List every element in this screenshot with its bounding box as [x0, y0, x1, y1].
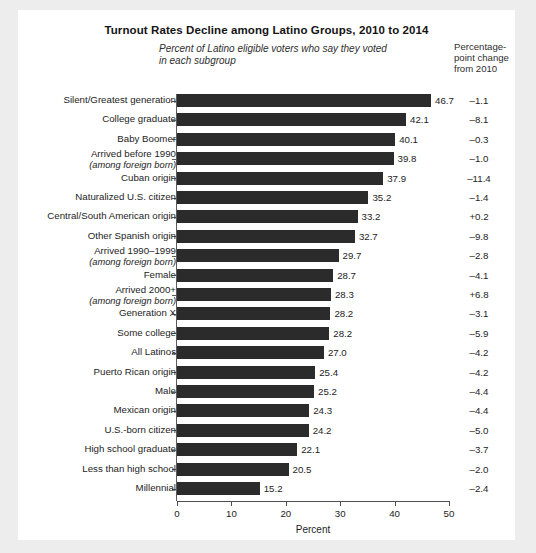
category-label: Arrived 2000+(among foreign born) — [89, 285, 176, 306]
change-value: –4.2 — [454, 367, 504, 378]
change-value: –5.9 — [454, 328, 504, 339]
bar — [177, 404, 309, 417]
bar-value-label: 25.4 — [319, 367, 338, 378]
category-label: Silent/Greatest generation — [63, 95, 176, 106]
category-label: Less than high school — [82, 464, 176, 475]
x-axis-tick — [449, 501, 450, 506]
category-label: Millennial — [136, 483, 176, 494]
category-label: College graduate — [102, 114, 176, 125]
bar-value-label: 29.7 — [343, 250, 362, 261]
change-value: –4.4 — [454, 405, 504, 416]
change-value: +6.8 — [454, 289, 504, 300]
bar — [177, 307, 330, 320]
change-value: –5.0 — [454, 425, 504, 436]
change-value: –0.3 — [454, 134, 504, 145]
change-value: –4.2 — [454, 347, 504, 358]
bar — [177, 94, 431, 107]
change-value: –1.0 — [454, 153, 504, 164]
category-label: Central/South American origin — [47, 211, 176, 222]
change-value: +0.2 — [454, 211, 504, 222]
change-value: –1.1 — [454, 95, 504, 106]
bar — [177, 230, 355, 243]
category-label: Arrived before 1990(among foreign born) — [89, 149, 176, 170]
x-axis-tick — [231, 501, 232, 506]
category-label: Male — [155, 386, 176, 397]
bar-value-label: 25.2 — [318, 386, 337, 397]
category-label: High school graduate — [84, 444, 176, 455]
x-axis-tick-label: 50 — [434, 508, 464, 519]
bar — [177, 133, 395, 146]
bar — [177, 152, 394, 165]
bar-value-label: 24.3 — [313, 405, 332, 416]
category-sublabel: (among foreign born) — [89, 296, 176, 307]
category-label: Female — [144, 270, 176, 281]
change-value: –4.1 — [454, 270, 504, 281]
bar — [177, 482, 260, 495]
bar — [177, 113, 406, 126]
category-label: All Latinos — [131, 347, 176, 358]
bar-value-label: 40.1 — [399, 134, 418, 145]
bar-value-label: 35.2 — [372, 192, 391, 203]
change-value: –9.8 — [454, 231, 504, 242]
bar — [177, 463, 289, 476]
change-value: –11.4 — [454, 173, 504, 184]
bar-value-label: 15.2 — [264, 483, 283, 494]
category-label: Cuban origin — [121, 173, 176, 184]
bar-value-label: 46.7 — [435, 95, 454, 106]
category-label: Puerto Rican origin — [94, 367, 176, 378]
category-sublabel: (among foreign born) — [89, 257, 176, 268]
bar-value-label: 28.2 — [333, 328, 352, 339]
bar — [177, 424, 309, 437]
x-axis-tick — [340, 501, 341, 506]
category-label: Naturalized U.S. citizen — [75, 192, 176, 203]
bar-value-label: 22.1 — [301, 444, 320, 455]
bar-value-label: 39.8 — [398, 153, 417, 164]
category-label: Other Spanish origin — [88, 231, 176, 242]
bar-value-label: 37.9 — [387, 173, 406, 184]
bar-value-label: 28.2 — [334, 308, 353, 319]
change-value: –1.4 — [454, 192, 504, 203]
bar-value-label: 33.2 — [362, 211, 381, 222]
change-value: –2.4 — [454, 483, 504, 494]
bar — [177, 191, 368, 204]
bar — [177, 366, 315, 379]
category-label: Generation X — [119, 308, 176, 319]
bar — [177, 288, 331, 301]
category-label: Some college — [117, 328, 176, 339]
x-axis-tick — [177, 501, 178, 506]
x-axis-tick-label: 30 — [325, 508, 355, 519]
bar — [177, 346, 324, 359]
x-axis-tick — [286, 501, 287, 506]
bar-value-label: 28.7 — [337, 270, 356, 281]
x-axis-tick-label: 20 — [271, 508, 301, 519]
category-sublabel: (among foreign born) — [89, 160, 176, 171]
bar — [177, 385, 314, 398]
category-label: Mexican origin — [114, 405, 176, 416]
x-axis-title: Percent — [177, 524, 449, 535]
bar — [177, 172, 383, 185]
x-axis-tick-label: 10 — [216, 508, 246, 519]
bar — [177, 210, 358, 223]
bar-value-label: 28.3 — [335, 289, 354, 300]
category-label: Baby Boomer — [117, 134, 176, 145]
chart-card: Turnout Rates Decline among Latino Group… — [18, 10, 515, 540]
category-label: U.S.-born citizen — [104, 425, 176, 436]
change-value: –3.7 — [454, 444, 504, 455]
x-axis-line — [177, 501, 449, 502]
category-label: Arrived 1990–1999(among foreign born) — [89, 246, 176, 267]
bar-value-label: 24.2 — [313, 425, 332, 436]
change-value: –4.4 — [454, 386, 504, 397]
bar — [177, 269, 333, 282]
bar-value-label: 27.0 — [328, 347, 347, 358]
bar-value-label: 20.5 — [293, 464, 312, 475]
bar-value-label: 32.7 — [359, 231, 378, 242]
x-axis-tick-label: 40 — [380, 508, 410, 519]
bar — [177, 327, 329, 340]
x-axis-tick — [395, 501, 396, 506]
change-value: –8.1 — [454, 114, 504, 125]
change-value: –2.8 — [454, 250, 504, 261]
x-axis-tick-label: 0 — [162, 508, 192, 519]
change-value: –2.0 — [454, 464, 504, 475]
bar — [177, 249, 339, 262]
bar-value-label: 42.1 — [410, 114, 429, 125]
